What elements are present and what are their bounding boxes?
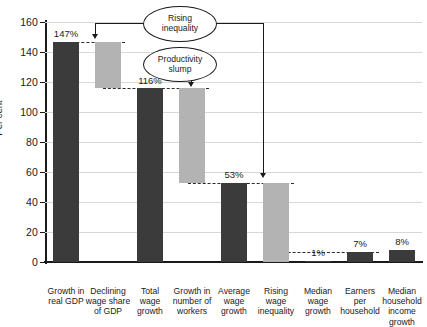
x-category-label-median-household-income-growth: Median household income growth — [379, 286, 425, 327]
bar-rising-wage-inequality[interactable] — [263, 183, 289, 263]
cat8-line1: Median — [388, 286, 416, 296]
x-category-label-rising-wage-inequality: Rising wage inequality — [253, 286, 299, 317]
x-category-label-growth-in-real-gdp: Growth in real GDP — [43, 286, 89, 306]
cat1-line1: Declining — [90, 286, 125, 296]
cat7-line1: Earners — [345, 286, 375, 296]
cat3-line1: Growth in — [174, 286, 211, 296]
cat6-line2: wage — [308, 296, 329, 306]
arrow-rising-to-declining-wage-share — [92, 34, 98, 39]
y-tick-label-140: 140 — [20, 46, 38, 58]
bar-growth-in-number-of-workers[interactable] — [179, 88, 205, 183]
tick-100 — [40, 112, 45, 113]
tick-160 — [40, 22, 45, 23]
cat2-line2: wage — [140, 296, 161, 306]
y-tick-label-120: 120 — [20, 76, 38, 88]
y-tick-label-80: 80 — [26, 136, 38, 148]
bar-declining-wage-share-of-gdp[interactable] — [95, 42, 121, 89]
callout-productivity-line2: slump — [169, 64, 192, 74]
bar-total-wage-growth[interactable] — [137, 88, 163, 262]
bar-earners-per-household[interactable] — [347, 252, 373, 263]
cat4-line2: wage — [224, 296, 245, 306]
cat0-line2: real GDP — [48, 296, 83, 306]
cat3-line2: number of — [173, 296, 212, 306]
bar-value-label-7: 7% — [353, 238, 367, 249]
callout-rising-line2: inequality — [162, 23, 198, 33]
bar-average-wage-growth[interactable] — [221, 183, 247, 263]
cat5-line1: Rising — [264, 286, 288, 296]
tick-40 — [40, 202, 45, 203]
gridline-100 — [45, 112, 422, 113]
x-category-label-growth-in-number-of-workers: Growth in number of workers — [169, 286, 215, 317]
gridline-80 — [45, 142, 422, 143]
arrow-productivity-to-growth-in-number-of-workers — [188, 82, 194, 87]
cat6-line3: growth — [305, 306, 331, 316]
y-tick-label-40: 40 — [26, 196, 38, 208]
callout-productivity-line1: Productivity — [158, 54, 202, 64]
bar-value-label-53: 53% — [224, 169, 243, 180]
cat8-line3: income — [388, 306, 416, 316]
x-category-label-total-wage-growth: Total wage growth — [127, 286, 173, 317]
cat1-line3: of GDP — [94, 306, 122, 316]
cat0-line1: Growth in — [48, 286, 85, 296]
connector-rising-right-vertical — [263, 23, 264, 176]
y-tick-label-20: 20 — [26, 226, 38, 238]
bar-growth-in-real-gdp[interactable] — [53, 42, 79, 263]
cat2-line1: Total — [141, 286, 159, 296]
tick-20 — [40, 232, 45, 233]
tick-140 — [40, 52, 45, 53]
cat4-line3: growth — [221, 306, 247, 316]
callout-rising-inequality[interactable]: Rising inequality — [143, 6, 217, 42]
connector-rising-left-horizontal — [95, 23, 145, 24]
connector-rising-right-horizontal — [213, 23, 264, 24]
cat8-line2: household — [382, 296, 422, 306]
tick-0 — [40, 262, 45, 263]
y-tick-label-60: 60 — [26, 166, 38, 178]
x-category-label-median-wage-growth: Median wage growth — [295, 286, 341, 317]
cat5-line3: inequality — [258, 306, 294, 316]
bar-median-household-income-growth[interactable] — [389, 250, 415, 262]
callout-rising-line1: Rising — [168, 13, 192, 23]
tick-80 — [40, 142, 45, 143]
plot-area: 160 140 120 100 80 60 40 20 0 147% — [45, 22, 422, 262]
cat8-line4: growth — [389, 317, 415, 327]
cat7-line2: per — [354, 296, 366, 306]
callout-productivity-slump[interactable]: Productivity slump — [143, 47, 217, 82]
cat6-line1: Median — [304, 286, 332, 296]
bar-value-label-1: 1% — [311, 247, 325, 258]
y-tick-label-0: 0 — [32, 256, 38, 268]
bar-value-label-8: 8% — [395, 236, 409, 247]
arrow-rising-to-rising-wage-inequality — [260, 173, 266, 178]
y-tick-label-160: 160 — [20, 16, 38, 28]
cat2-line3: growth — [137, 306, 163, 316]
cat3-line3: workers — [177, 306, 207, 316]
x-category-label-declining-wage-share: Declining wage share of GDP — [85, 286, 131, 317]
x-category-label-average-wage-growth: Average wage growth — [211, 286, 257, 317]
tick-60 — [40, 172, 45, 173]
y-tick-label-100: 100 — [20, 106, 38, 118]
bar-value-label-147: 147% — [54, 28, 78, 39]
tick-120 — [40, 82, 45, 83]
y-axis-label: Per cent — [0, 100, 4, 135]
bar-median-wage-growth[interactable] — [305, 261, 331, 263]
cat4-line1: Average — [218, 286, 250, 296]
cat7-line3: household — [340, 306, 380, 316]
cat5-line2: wage — [266, 296, 287, 306]
x-category-label-earners-per-household: Earners per household — [337, 286, 383, 317]
cat1-line2: wage share — [86, 296, 130, 306]
